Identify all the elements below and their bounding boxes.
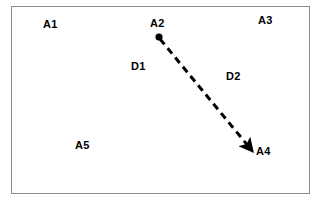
edge-label-d2: D2 xyxy=(226,71,240,82)
edge-label-d1: D1 xyxy=(131,61,145,72)
node-label-a5: A5 xyxy=(75,140,89,151)
diagram-canvas: A1 A2 A3 A5 A4 D1 D2 xyxy=(0,0,324,207)
node-label-a1: A1 xyxy=(43,19,57,30)
node-label-a4: A4 xyxy=(256,146,270,157)
dashed-arrow-a2-to-a4 xyxy=(160,39,249,147)
node-label-a2: A2 xyxy=(150,18,164,29)
diagram-overlay xyxy=(0,0,324,207)
node-dot-a2 xyxy=(155,33,162,40)
node-label-a3: A3 xyxy=(258,15,272,26)
